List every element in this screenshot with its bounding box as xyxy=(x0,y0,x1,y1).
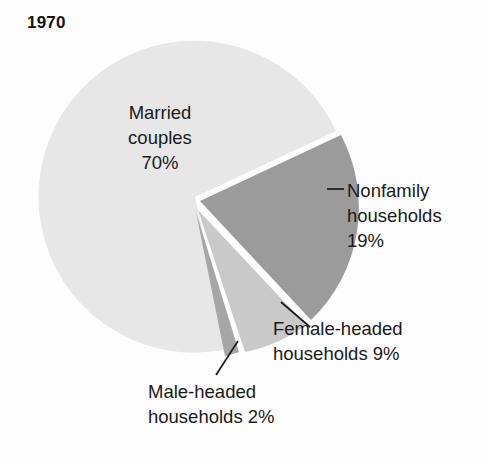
slice-label-value: 19% xyxy=(347,228,442,253)
slice-label-line: households 2% xyxy=(148,404,275,429)
slice-label-line: Married xyxy=(96,100,224,125)
slice-label-line: Nonfamily xyxy=(347,178,442,203)
slice-label-married-couples: Married couples 70% xyxy=(96,100,224,175)
slice-label-line: Male-headed xyxy=(148,379,275,404)
slice-label-line: households 9% xyxy=(273,341,403,366)
slice-label-male-headed-households: Male-headed households 2% xyxy=(148,379,275,429)
slice-label-line: households xyxy=(347,203,442,228)
slice-label-female-headed-households: Female-headed households 9% xyxy=(273,316,403,366)
slice-label-value: 70% xyxy=(96,150,224,175)
slice-label-line: couples xyxy=(96,125,224,150)
slice-label-nonfamily-households: Nonfamily households 19% xyxy=(347,178,442,253)
slice-label-line: Female-headed xyxy=(273,316,403,341)
pie-chart: 1970 Married couples 70% Nonfamily house… xyxy=(0,0,487,466)
